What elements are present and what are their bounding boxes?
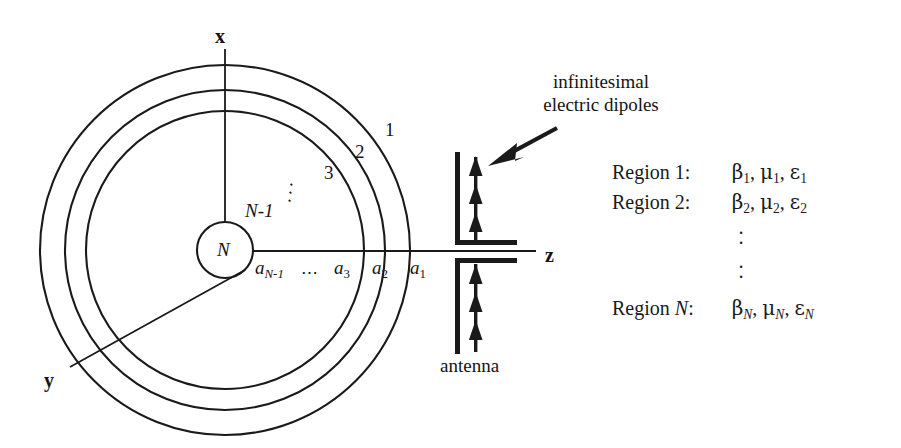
region-row-n: Region N: βN, μN, εN	[612, 296, 814, 326]
region-row-2: Region 2: β2, μ2, ε2	[612, 190, 814, 220]
radius-label-a2: a2	[372, 258, 388, 281]
antenna-upper-post	[455, 152, 460, 245]
antenna-lower-post	[455, 258, 460, 354]
dipole-arrowhead-lower-1	[469, 264, 483, 284]
beta-symbol: β	[732, 296, 744, 320]
radius-sub: 1	[420, 266, 426, 281]
dipole-arrowhead-lower-3	[469, 320, 483, 340]
epsilon-sub: 1	[800, 171, 807, 186]
region-colon: :	[688, 297, 694, 319]
epsilon-symbol: ε	[790, 190, 800, 214]
epsilon-symbol: ε	[794, 296, 804, 320]
epsilon-sub: N	[805, 307, 814, 322]
radius-label-a-n-minus-1: aN-1	[255, 258, 284, 281]
core-label-N: N	[217, 240, 230, 259]
ring-label-2: 2	[355, 142, 365, 161]
region-gap-cell-2	[694, 220, 814, 296]
beta-symbol: β	[732, 190, 744, 214]
antenna-upper	[455, 152, 517, 245]
region-parameter-table: Region 1: β1, μ1, ε1 Region 2: β2, μ2, ε…	[612, 160, 814, 326]
x-axis-label: x	[215, 26, 225, 46]
radius-base: a	[372, 257, 382, 278]
epsilon-symbol: ε	[790, 160, 800, 184]
vdot: ·	[734, 272, 748, 282]
ring-label-n-minus-1: N-1	[245, 201, 274, 220]
region-word: Region	[612, 161, 675, 183]
antenna-label: antenna	[440, 356, 499, 375]
y-axis-label: y	[44, 370, 54, 390]
sep-comma: ,	[780, 191, 785, 213]
callout-line-1: infinitesimal	[506, 70, 696, 93]
dipole-arrowhead-upper-1	[469, 156, 483, 176]
beta-symbol: β	[732, 160, 744, 184]
sep-comma: ,	[784, 297, 789, 319]
radius-label-a3: a3	[334, 258, 350, 281]
radius-label-a1: a1	[410, 258, 426, 281]
region-index: 2	[675, 191, 685, 213]
region-row-1-name: Region 1:	[612, 160, 694, 190]
pointer-arrow	[488, 128, 557, 166]
mu-symbol: μ	[760, 190, 773, 214]
region-row-1: Region 1: β1, μ1, ε1	[612, 160, 814, 190]
region-gap-cell	[612, 220, 694, 296]
radius-base: a	[255, 257, 265, 278]
mu-symbol: μ	[760, 160, 773, 184]
region-word: Region	[612, 191, 675, 213]
antenna-lower-cap	[455, 258, 517, 263]
region-row-1-params: β1, μ1, ε1	[694, 160, 814, 190]
z-axis-label: z	[545, 245, 554, 265]
epsilon-sub: 2	[800, 201, 807, 216]
dipole-arrowhead-upper-2	[469, 184, 483, 204]
region-gap-row	[612, 220, 814, 296]
radius-sub: 3	[344, 266, 350, 281]
region-index: N	[675, 297, 688, 319]
ring-label-n-minus-1-text: N-1	[245, 200, 274, 221]
radius-dots: ⋯	[301, 264, 319, 281]
vdot: ·	[734, 238, 748, 248]
sep-comma: ,	[752, 297, 757, 319]
radius-sub: 2	[382, 266, 388, 281]
region-colon: :	[685, 161, 691, 183]
mu-symbol: μ	[762, 296, 775, 320]
callout-line-2: electric dipoles	[506, 93, 696, 116]
region-index: 1	[675, 161, 685, 183]
radius-sub: N-1	[265, 266, 284, 281]
sep-comma: ,	[750, 191, 755, 213]
ring-label-3: 3	[324, 163, 334, 182]
beta-sub: N	[743, 307, 752, 322]
radius-base: a	[410, 257, 420, 278]
sep-comma: ,	[750, 161, 755, 183]
region-vertical-dots-2: · ·	[734, 262, 748, 283]
region-colon: :	[685, 191, 691, 213]
mu-sub: 2	[773, 201, 780, 216]
sep-comma: ,	[780, 161, 785, 183]
dipole-arrowhead-upper-3	[469, 212, 483, 232]
region-row-2-params: β2, μ2, ε2	[694, 190, 814, 220]
region-vertical-dots-1: · ·	[734, 228, 748, 249]
figure-canvas: x y z N 1 2 3 ⋰ N-1 aN-1 ⋯ a3 a2 a1 infi…	[0, 0, 901, 448]
y-axis-line	[70, 270, 245, 367]
region-row-n-name: Region N:	[612, 296, 694, 326]
ring-label-1: 1	[385, 120, 395, 139]
callout-text: infinitesimal electric dipoles	[506, 70, 696, 116]
mu-sub: 1	[773, 171, 780, 186]
antenna-upper-foot	[455, 240, 517, 245]
region-row-n-params: βN, μN, εN	[694, 296, 814, 326]
radius-base: a	[334, 257, 344, 278]
antenna-lower	[455, 258, 517, 354]
region-word: Region	[612, 297, 675, 319]
region-row-2-name: Region 2:	[612, 190, 694, 220]
dipole-arrowhead-lower-2	[469, 292, 483, 312]
